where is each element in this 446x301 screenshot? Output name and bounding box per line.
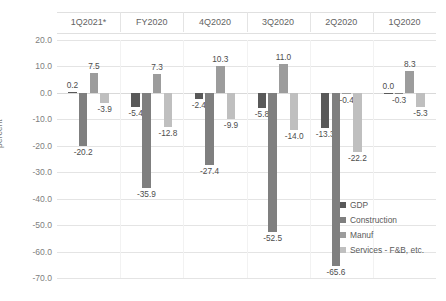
data-label: -9.9: [224, 120, 238, 130]
category-separator: [310, 12, 311, 32]
gridline: [57, 278, 436, 279]
y-tick-label: -60.0: [0, 247, 52, 257]
bar: [258, 93, 267, 108]
legend: GDPConstructionManufServices - F&B, etc.: [340, 197, 444, 257]
category-separator: [247, 12, 248, 32]
bar: [279, 64, 288, 93]
bar: [342, 93, 351, 94]
group-separator: [120, 40, 121, 278]
bar: [100, 93, 109, 103]
bar: [79, 93, 88, 146]
group-separator: [310, 40, 311, 278]
data-label: -5.3: [413, 108, 427, 118]
data-label: -0.3: [392, 95, 406, 105]
legend-item[interactable]: GDP: [340, 197, 444, 212]
legend-swatch-icon: [340, 217, 346, 223]
data-label: -0.4: [339, 95, 353, 105]
bar: [142, 93, 151, 188]
y-tick-label: 10.0: [0, 61, 52, 71]
category-axis-bottom-rule: [57, 33, 436, 34]
data-label: -2.4: [192, 100, 206, 110]
data-label: 8.3: [404, 59, 416, 69]
y-tick-label: 0.0: [0, 88, 52, 98]
data-label: -52.5: [263, 233, 282, 243]
category-separator: [120, 12, 121, 32]
data-label: -27.4: [200, 166, 219, 176]
data-label: -35.9: [137, 189, 156, 199]
category-label: FY2020: [120, 12, 183, 32]
data-label: -14.0: [285, 131, 304, 141]
legend-label: GDP: [350, 200, 368, 210]
group-separator: [247, 40, 248, 278]
data-label: -3.9: [98, 104, 112, 114]
bar: [384, 93, 393, 94]
category-label: 3Q2020: [247, 12, 310, 32]
legend-label: Manuf: [350, 230, 373, 240]
legend-item[interactable]: Services - F&B, etc.: [340, 242, 444, 257]
bar: [395, 93, 404, 94]
group-separator: [183, 40, 184, 278]
category-label: 2Q2020: [310, 12, 373, 32]
y-tick-label: -20.0: [0, 141, 52, 151]
data-label: 10.3: [212, 54, 228, 64]
y-tick-label: -70.0: [0, 273, 52, 283]
category-separator: [183, 12, 184, 32]
bar: [205, 93, 214, 165]
bar: [131, 93, 140, 107]
bar-chart: percent 20.010.00.0-10.0-20.0-30.0-40.0-…: [0, 0, 446, 301]
data-label: -5.8: [255, 109, 269, 119]
data-label: -20.2: [74, 147, 93, 157]
category-separator: [373, 12, 374, 32]
data-label: 0.2: [67, 80, 79, 90]
y-axis-tick-labels: 20.010.00.0-10.0-20.0-30.0-40.0-50.0-60.…: [0, 40, 52, 278]
y-tick-label: -50.0: [0, 220, 52, 230]
bar: [416, 93, 425, 107]
data-label: -22.2: [348, 153, 367, 163]
bar: [321, 93, 330, 128]
bar: [195, 93, 204, 99]
bar: [332, 93, 341, 266]
data-label: -65.6: [326, 267, 345, 277]
category-label: 1Q2021*: [57, 12, 120, 32]
bar: [164, 93, 173, 127]
bar: [268, 93, 277, 232]
bar: [153, 74, 162, 93]
bar: [216, 66, 225, 93]
y-tick-label: -10.0: [0, 114, 52, 124]
legend-item[interactable]: Construction: [340, 212, 444, 227]
legend-label: Construction: [350, 215, 397, 225]
y-tick-label: 20.0: [0, 35, 52, 45]
data-label: 0.0: [383, 81, 395, 91]
data-label: 7.3: [151, 62, 163, 72]
bar: [290, 93, 299, 130]
bar: [353, 93, 362, 152]
bar: [90, 73, 99, 93]
legend-swatch-icon: [340, 247, 346, 253]
data-label: -5.4: [128, 108, 142, 118]
legend-label: Services - F&B, etc.: [350, 245, 424, 255]
y-tick-label: -30.0: [0, 167, 52, 177]
legend-swatch-icon: [340, 232, 346, 238]
y-tick-label: -40.0: [0, 194, 52, 204]
data-label: 7.5: [88, 61, 100, 71]
data-label: 11.0: [276, 52, 292, 62]
legend-item[interactable]: Manuf: [340, 227, 444, 242]
category-label: 4Q2020: [183, 12, 246, 32]
category-label: 1Q2020: [373, 12, 436, 32]
bar: [405, 71, 414, 93]
legend-swatch-icon: [340, 202, 346, 208]
bar: [227, 93, 236, 119]
category-axis: 1Q2021*FY20204Q20203Q20202Q20201Q2020: [57, 12, 436, 32]
bar: [68, 92, 77, 93]
data-label: -12.8: [158, 128, 177, 138]
